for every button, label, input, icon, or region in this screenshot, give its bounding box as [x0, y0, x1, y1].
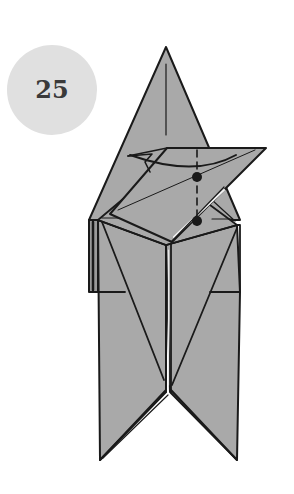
left-side-layers	[89, 220, 98, 292]
pivot-dot-lower	[192, 216, 202, 226]
pivot-dot-upper	[192, 172, 202, 182]
lower-body	[98, 220, 240, 460]
origami-diagram	[0, 0, 294, 494]
